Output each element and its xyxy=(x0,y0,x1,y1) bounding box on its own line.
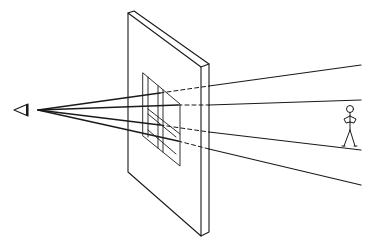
projection-rays-beyond xyxy=(209,65,361,185)
eye-icon xyxy=(14,104,28,116)
perspective-diagram xyxy=(0,0,369,241)
stick-figure xyxy=(342,106,357,147)
diagram-svg xyxy=(0,0,369,241)
